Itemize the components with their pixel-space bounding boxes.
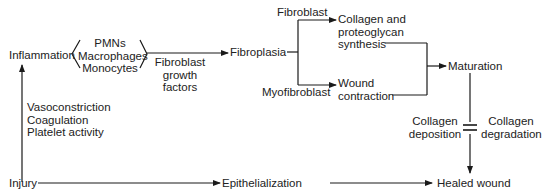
collagen-deposition-line-1: Collagen: [408, 115, 462, 128]
label-fibroblast: Fibroblast: [277, 6, 328, 19]
cell-pmns: PMNs: [78, 37, 142, 50]
wound-contraction-line-2: contraction: [338, 90, 394, 103]
label-collagen-deposition: Collagen deposition: [408, 115, 462, 140]
growth-factors-label: Fibroblast growth factors: [152, 56, 208, 94]
cell-macrophages: Macrophages: [78, 50, 142, 63]
hemostasis-platelet-activity: Platelet activity: [27, 126, 111, 139]
node-epithelialization: Epithelialization: [222, 177, 302, 190]
growth-factors-line-3: factors: [152, 81, 208, 94]
label-collagen-degradation: Collagen degradation: [481, 115, 541, 140]
node-maturation: Maturation: [448, 60, 502, 73]
node-fibroplasia: Fibroplasia: [230, 46, 286, 59]
node-healed-wound: Healed wound: [437, 177, 511, 190]
collagen-synthesis-line-3: synthesis: [338, 38, 406, 51]
cell-list: PMNs Macrophages Monocytes: [78, 37, 142, 75]
cell-monocytes: Monocytes: [78, 62, 142, 75]
node-wound-contraction: Wound contraction: [338, 77, 394, 102]
collagen-deposition-line-2: deposition: [408, 128, 462, 141]
wound-contraction-line-1: Wound: [338, 77, 394, 90]
collagen-degradation-line-1: Collagen: [481, 115, 541, 128]
growth-factors-line-2: growth: [152, 69, 208, 82]
hemostasis-vasoconstriction: Vasoconstriction: [27, 101, 111, 114]
node-injury: Injury: [9, 177, 37, 190]
node-collagen-synthesis: Collagen and proteoglycan synthesis: [338, 13, 406, 51]
label-hemostasis: Vasoconstriction Coagulation Platelet ac…: [27, 101, 111, 139]
growth-factors-line-1: Fibroblast: [152, 56, 208, 69]
collagen-synthesis-line-2: proteoglycan: [338, 26, 406, 39]
collagen-degradation-line-2: degradation: [481, 128, 541, 141]
label-myofibroblast: Myofibroblast: [262, 86, 330, 99]
hemostasis-coagulation: Coagulation: [27, 114, 111, 127]
node-inflammation: Inflammation: [9, 49, 75, 62]
collagen-synthesis-line-1: Collagen and: [338, 13, 406, 26]
